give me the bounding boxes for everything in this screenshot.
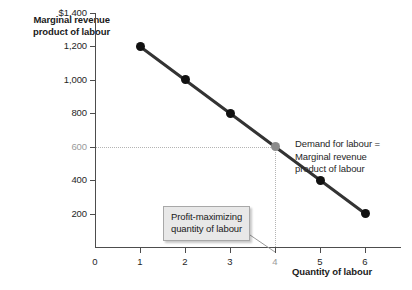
profit-maximizing-callout: Profit-maximizing quantity of labour xyxy=(163,206,250,241)
callout-line-2: quantity of labour xyxy=(171,223,242,235)
data-point-marker xyxy=(136,42,145,51)
series-annotation: Demand for labour = Marginal revenue pro… xyxy=(295,138,380,176)
data-point-marker xyxy=(181,75,190,84)
data-point-marker-highlight xyxy=(271,142,280,151)
data-point-marker xyxy=(226,109,235,118)
series-annotation-line-3: product of labour xyxy=(295,163,380,176)
chart-figure: Marginal revenue product of labour Quant… xyxy=(0,0,412,290)
data-point-marker xyxy=(361,209,370,218)
series-annotation-line-1: Demand for labour = xyxy=(295,138,380,151)
series-annotation-line-2: Marginal revenue xyxy=(295,151,380,164)
callout-line-1: Profit-maximizing xyxy=(171,211,242,223)
data-point-marker xyxy=(316,176,325,185)
